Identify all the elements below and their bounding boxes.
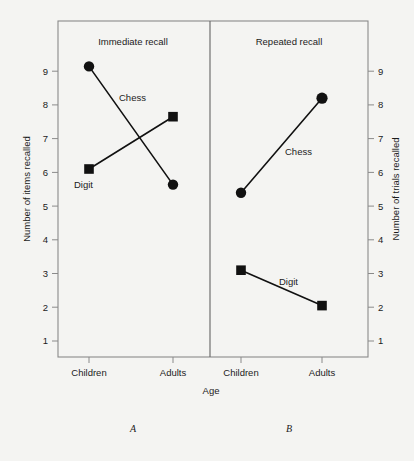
- panel-a-chess-point-adults: [168, 179, 178, 189]
- y-tick-label-left-1: 1: [43, 335, 48, 346]
- y-tick-label-left-6: 6: [43, 167, 48, 178]
- y-tick-label-left-2: 2: [43, 302, 48, 313]
- panel-letter-b: B: [286, 423, 292, 434]
- x-tick-label-a-children: Children: [71, 367, 106, 378]
- panel-a-chess-point-children: [84, 61, 94, 71]
- y-axis-title-right: Number of trials recalled: [390, 138, 401, 241]
- panel-b-digit-point-adults: [317, 301, 327, 311]
- y-tick-label-right-3: 3: [378, 268, 383, 279]
- x-axis-title: Age: [203, 385, 220, 396]
- y-tick-label-left-5: 5: [43, 201, 48, 212]
- y-tick-label-right-8: 8: [378, 99, 383, 110]
- panel-a-chess-label: Chess: [119, 92, 146, 103]
- panel-a-series-chess: [84, 61, 178, 190]
- figure-container: 9 8 7 6 5 4 3 2 1 9 8 7 6 5 4 3 2 1 N: [0, 0, 414, 461]
- y-tick-label-right-9: 9: [378, 66, 383, 77]
- panel-b-series-chess: [236, 93, 328, 198]
- panel-b-chess-point-children: [236, 188, 246, 198]
- y-tick-label-right-7: 7: [378, 133, 383, 144]
- panel-a-digit-point-adults: [168, 112, 178, 122]
- y-tick-label-left-9: 9: [43, 66, 48, 77]
- y-tick-label-left-8: 8: [43, 99, 48, 110]
- y-tick-label-left-4: 4: [43, 234, 48, 245]
- y-tick-label-right-2: 2: [378, 302, 383, 313]
- chart-canvas: 9 8 7 6 5 4 3 2 1 9 8 7 6 5 4 3 2 1 N: [0, 0, 414, 461]
- x-tick-label-b-adults: Adults: [309, 367, 336, 378]
- y-tick-label-left-7: 7: [43, 133, 48, 144]
- x-axis-ticks: [89, 357, 322, 363]
- panel-a-digit-label: Digit: [74, 179, 93, 190]
- y-tick-label-left-3: 3: [43, 268, 48, 279]
- x-tick-label-b-children: Children: [223, 367, 258, 378]
- panel-b-digit-label: Digit: [279, 276, 298, 287]
- panel-b-chess-label: Chess: [285, 146, 312, 157]
- y-axis-left-ticks: [52, 71, 58, 341]
- panel-letter-a: A: [129, 423, 137, 434]
- y-axis-right-ticks: [368, 71, 374, 341]
- x-tick-label-a-adults: Adults: [160, 367, 187, 378]
- y-tick-label-right-4: 4: [378, 234, 383, 245]
- panel-b-series-digit: [236, 265, 327, 310]
- panel-a-series-digit: [84, 112, 178, 174]
- panel-b-digit-point-children: [236, 265, 246, 275]
- y-tick-label-right-1: 1: [378, 335, 383, 346]
- panel-a-chess-line: [89, 66, 173, 184]
- y-tick-label-right-6: 6: [378, 167, 383, 178]
- y-axis-title-left: Number of items recalled: [21, 136, 32, 242]
- panel-b-chess-point-adults: [316, 93, 327, 104]
- y-tick-label-right-5: 5: [378, 201, 383, 212]
- panel-b-title: Repeated recall: [256, 36, 323, 47]
- panel-a-title: Immediate recall: [98, 36, 168, 47]
- panel-a-digit-point-children: [84, 164, 94, 174]
